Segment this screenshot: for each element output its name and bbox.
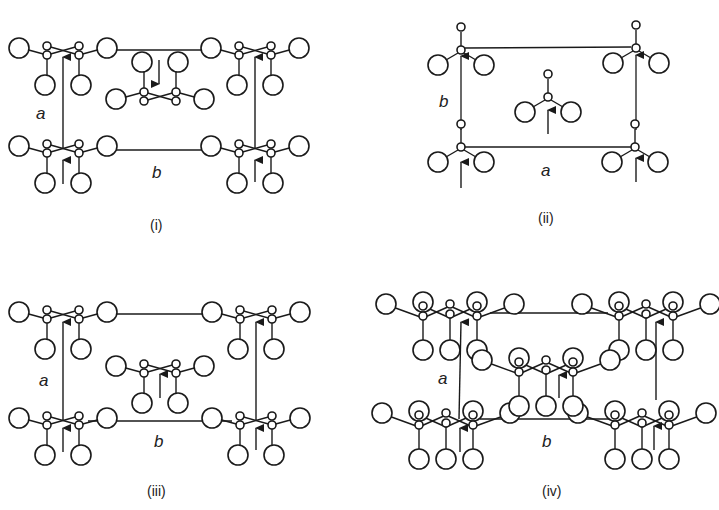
molecule <box>376 292 524 360</box>
molecule <box>572 292 719 360</box>
axis-label-horizontal: b <box>542 432 551 452</box>
axis-a-arrow <box>459 322 461 419</box>
crystal-packing-figure: a b (i) b a (ii) a b (iii) a b (iv) <box>0 0 719 510</box>
diagram-canvas <box>0 0 719 510</box>
axis-label-vertical: a <box>36 104 45 124</box>
molecule <box>568 401 716 469</box>
panel-caption: (ii) <box>538 210 554 226</box>
axis-label-vertical: a <box>39 371 48 391</box>
axis-label-horizontal: a <box>541 161 550 181</box>
axis-label-horizontal: b <box>152 163 161 183</box>
molecule-inverted <box>106 52 214 109</box>
axis-label-vertical: a <box>438 369 447 389</box>
cell-edge-top <box>465 47 631 48</box>
molecule <box>602 120 668 172</box>
panel-caption: (i) <box>150 217 162 233</box>
panel-caption: (iv) <box>542 483 561 499</box>
panel-caption: (iii) <box>147 483 166 499</box>
axis-label-vertical: b <box>439 92 448 112</box>
molecule <box>472 348 620 416</box>
axis-label-horizontal: b <box>154 432 163 452</box>
molecule <box>372 401 520 469</box>
